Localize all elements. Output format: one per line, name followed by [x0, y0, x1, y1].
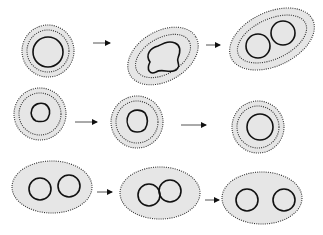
cell-division-diagram — [0, 0, 323, 235]
stages-layer — [12, 0, 323, 224]
cell-body — [118, 15, 209, 96]
cell-body — [220, 0, 323, 82]
elongated-cell-two-nuclei — [220, 0, 323, 82]
round-cell-single-nucleus — [22, 25, 74, 77]
oval-cell-split-nuclei — [222, 172, 302, 224]
round-cell-round-nucleus — [232, 101, 284, 153]
round-cell-polygonal-nucleus — [111, 96, 163, 148]
round-cell-irregular-nucleus — [14, 88, 66, 140]
elongated-cell-lobed-nucleus — [118, 15, 209, 96]
